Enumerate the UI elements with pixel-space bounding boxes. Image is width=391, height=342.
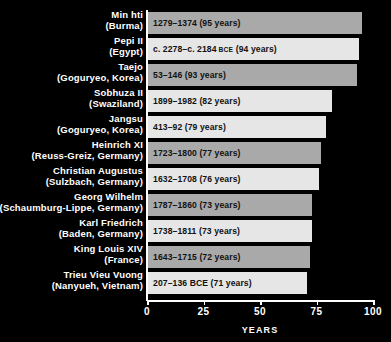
ruler-place: (Schaumburg-Lippe, Germany) (0, 203, 143, 214)
ruler-name: Sobhuza II (0, 88, 143, 99)
ruler-place: (Burma) (0, 21, 143, 32)
bar: 1787–1860 (73 years) (147, 194, 312, 216)
bar-row-label: Trieu Vieu Vuong(Nanyueh, Vietnam) (0, 270, 143, 291)
bar-rows: Min hti(Burma)1279–1374 (95 years)Pepi I… (0, 10, 391, 296)
bar-row: Trieu Vieu Vuong(Nanyueh, Vietnam)207–13… (0, 270, 391, 296)
x-axis-tick (373, 300, 375, 305)
x-axis-tick-label: 100 (364, 306, 382, 317)
x-axis-tick (204, 300, 206, 305)
bar-row-label: Georg Wilhelm(Schaumburg-Lippe, Germany) (0, 192, 143, 213)
bar-value-label: 413–92 (79 years) (147, 122, 226, 132)
era-abbreviation: BCE (218, 46, 233, 53)
bar-value-label: 1899–1982 (82 years) (147, 96, 241, 106)
bar-row: Christian Augustus(Sulzbach, Germany)163… (0, 166, 391, 192)
ruler-place: (Goguryeo, Korea) (0, 73, 143, 84)
bar-row: Karl Friedrich(Baden, Germany)1738–1811 … (0, 218, 391, 244)
bar-row-label: Pepi II(Egypt) (0, 36, 143, 57)
ruler-name: Georg Wilhelm (0, 192, 143, 203)
bar-row: Sobhuza II(Swaziland)1899–1982 (82 years… (0, 88, 391, 114)
ruler-name: Karl Friedrich (0, 218, 143, 229)
bar: 1723–1800 (77 years) (147, 142, 321, 164)
ruler-place: (France) (0, 255, 143, 266)
bar-value-label: 1279–1374 (95 years) (147, 18, 241, 28)
bar: 413–92 (79 years) (147, 116, 326, 138)
ruler-name: Jangsu (0, 114, 143, 125)
bar: 1738–1811 (73 years) (147, 220, 312, 242)
bar-value-label: 1632–1708 (76 years) (147, 174, 241, 184)
bar: 1643–1715 (72 years) (147, 246, 310, 268)
ruler-place: (Baden, Germany) (0, 229, 143, 240)
bar: 1899–1982 (82 years) (147, 90, 332, 112)
bar-row: Georg Wilhelm(Schaumburg-Lippe, Germany)… (0, 192, 391, 218)
bar: 53–146 (93 years) (147, 64, 357, 86)
ruler-name: Christian Augustus (0, 166, 143, 177)
ruler-place: (Reuss-Greiz, Germany) (0, 151, 143, 162)
ruler-name: Trieu Vieu Vuong (0, 270, 143, 281)
bar-value-label: 1787–1860 (73 years) (147, 200, 241, 210)
bar-row-label: Karl Friedrich(Baden, Germany) (0, 218, 143, 239)
bar: 1632–1708 (76 years) (147, 168, 319, 190)
x-axis-tick-label: 75 (311, 306, 323, 317)
x-axis-tick (147, 300, 149, 305)
bar-value-label: 1723–1800 (77 years) (147, 148, 241, 158)
bar: c. 2278–c. 2184 BCE (94 years) (147, 38, 359, 60)
bar-chart: Min hti(Burma)1279–1374 (95 years)Pepi I… (0, 0, 391, 342)
bar-row-label: Sobhuza II(Swaziland) (0, 88, 143, 109)
bar-value-label: 207–136 BCE (71 years) (147, 278, 252, 288)
bar-row: Pepi II(Egypt)c. 2278–c. 2184 BCE (94 ye… (0, 36, 391, 62)
bar-row: Jangsu(Goguryeo, Korea)413–92 (79 years) (0, 114, 391, 140)
bar-row: Min hti(Burma)1279–1374 (95 years) (0, 10, 391, 36)
y-axis-line (146, 10, 148, 301)
bar-row-label: Taejo(Goguryeo, Korea) (0, 62, 143, 83)
x-axis-tick (317, 300, 319, 305)
ruler-name: Taejo (0, 62, 143, 73)
bar-row: Heinrich XI(Reuss-Greiz, Germany)1723–18… (0, 140, 391, 166)
bar-row-label: Min hti(Burma) (0, 10, 143, 31)
bar: 207–136 BCE (71 years) (147, 272, 307, 294)
bar-row: Taejo(Goguryeo, Korea)53–146 (93 years) (0, 62, 391, 88)
ruler-name: Heinrich XI (0, 140, 143, 151)
bar-row: King Louis XIV(France)1643–1715 (72 year… (0, 244, 391, 270)
x-axis-title: YEARS (147, 325, 373, 335)
ruler-place: (Nanyueh, Vietnam) (0, 281, 143, 292)
bar-row-label: King Louis XIV(France) (0, 244, 143, 265)
x-axis-tick-label: 25 (198, 306, 210, 317)
bar-row-label: Heinrich XI(Reuss-Greiz, Germany) (0, 140, 143, 161)
reign-years-suffix: (94 years) (233, 44, 277, 54)
x-axis-tick (260, 300, 262, 305)
bar-value-label: 1643–1715 (72 years) (147, 252, 241, 262)
bar-row-label: Jangsu(Goguryeo, Korea) (0, 114, 143, 135)
ruler-place: (Goguryeo, Korea) (0, 125, 143, 136)
ruler-name: Pepi II (0, 36, 143, 47)
bar-value-label: 53–146 (93 years) (147, 70, 226, 80)
ruler-name: Min hti (0, 10, 143, 21)
ruler-place: (Egypt) (0, 47, 143, 58)
bar: 1279–1374 (95 years) (147, 12, 362, 34)
ruler-place: (Swaziland) (0, 99, 143, 110)
ruler-place: (Sulzbach, Germany) (0, 177, 143, 188)
bar-value-label: c. 2278–c. 2184 BCE (94 years) (147, 44, 277, 54)
reign-years-prefix: c. 2278–c. 2184 (153, 44, 218, 54)
x-axis-tick-label: 50 (254, 306, 266, 317)
ruler-name: King Louis XIV (0, 244, 143, 255)
plot-area: Min hti(Burma)1279–1374 (95 years)Pepi I… (0, 0, 391, 342)
bar-row-label: Christian Augustus(Sulzbach, Germany) (0, 166, 143, 187)
bar-value-label: 1738–1811 (73 years) (147, 226, 240, 236)
x-axis-tick-label: 0 (144, 306, 150, 317)
